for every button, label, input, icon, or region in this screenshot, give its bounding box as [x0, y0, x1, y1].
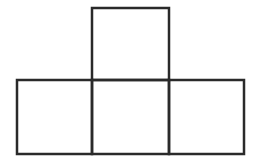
bottom-left-square	[17, 80, 92, 154]
squares-group	[17, 8, 244, 154]
bottom-right-square	[169, 80, 244, 154]
top-square	[92, 8, 169, 80]
t-shape-net-diagram	[0, 0, 261, 158]
bottom-middle-square	[92, 80, 169, 154]
